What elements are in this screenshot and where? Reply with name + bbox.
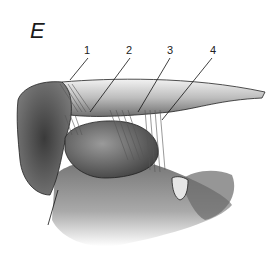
label-1: 1 — [84, 44, 90, 56]
panel-letter: E — [30, 18, 45, 44]
label-4: 4 — [210, 44, 216, 56]
label-3: 3 — [167, 44, 173, 56]
coracoid-process — [65, 121, 158, 178]
label-2: 2 — [126, 44, 132, 56]
clavicle — [62, 79, 265, 116]
